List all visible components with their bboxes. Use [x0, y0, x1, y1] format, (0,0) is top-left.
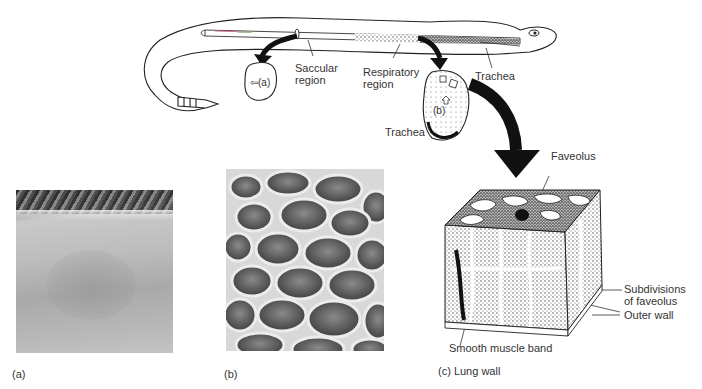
caption-panel-c: (c) Lung wall — [438, 365, 500, 377]
arrow-to-c-head — [494, 150, 540, 178]
label-respiratory-region: Respiratory region — [363, 66, 419, 90]
photo-b-respiratory-sem — [226, 169, 384, 351]
arrow-left-icon: ⇦ — [250, 77, 258, 88]
label-outer-wall: Outer wall — [624, 309, 674, 321]
lung-tube — [201, 29, 520, 46]
label-cross-section-b: (b) — [433, 105, 445, 117]
label-faveolus: Faveolus — [551, 150, 596, 162]
cross-section-b — [423, 71, 469, 141]
caption-panel-a: (a) — [12, 368, 25, 380]
label-smooth-muscle-band: Smooth muscle band — [449, 342, 552, 354]
caption-panel-b: (b) — [224, 368, 237, 380]
lung-wall-block — [445, 190, 602, 336]
label-trachea-head: Trachea — [475, 70, 515, 82]
photo-a-saccular-sem — [16, 190, 173, 353]
arrow-to-c — [470, 84, 516, 150]
label-trachea-section: Trachea — [385, 126, 425, 138]
arrow-to-b-head — [430, 58, 448, 70]
snake-eye — [529, 30, 539, 36]
label-subdivisions-faveolus: Subdivisions of faveolus — [624, 283, 686, 307]
label-saccular-region: Saccular region — [295, 62, 338, 86]
arrow-to-a — [262, 36, 297, 56]
label-cross-section-a: ⇦(a) — [250, 77, 270, 89]
